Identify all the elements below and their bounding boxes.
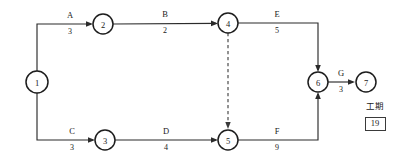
activity-label-A-duration: 3 [68,27,72,36]
activity-label-E-name: E [274,9,279,19]
node-3[interactable]: 3 [95,130,115,150]
activity-label-B-name: B [162,9,168,19]
edge-D-arrowhead [211,137,218,143]
activity-label-F-name: F [275,126,280,136]
node-5[interactable]: 5 [218,130,238,150]
edge-B-path [113,23,216,24]
activity-label-B-duration: 2 [163,26,167,35]
node-6-label: 6 [316,78,320,88]
network-diagram: A 3 B 2 C 3 D 4 E 5 F 9 G 3 1 [0,0,406,163]
edge-A-arrowhead [86,21,93,27]
edge-A-path [37,24,91,71]
node-3-label: 3 [103,136,107,146]
activity-label-C-duration: 3 [70,143,74,152]
node-2[interactable]: 2 [93,14,113,34]
activity-label-A-name: A [67,10,74,20]
node-4[interactable]: 4 [218,13,238,33]
edge-B-arrowhead [211,21,218,27]
activity-label-F-duration: 9 [275,143,279,152]
node-7[interactable]: 7 [356,72,376,92]
edge-dummy-arrowhead [225,122,230,129]
edge-C-arrowhead [88,137,95,143]
edge-F-arrowhead [315,92,321,99]
project-duration-value: 19 [365,117,386,131]
node-5-label: 5 [226,136,230,146]
edge-C-path [37,93,93,140]
activity-label-C-name: C [69,126,75,136]
node-7-label: 7 [364,78,368,88]
activity-label-D-name: D [163,126,169,136]
activity-label-G-duration: 3 [339,85,343,94]
project-duration-panel: 工期 19 [355,101,395,131]
node-1[interactable]: 1 [26,71,48,93]
activity-label-E-duration: 5 [275,26,279,35]
node-6[interactable]: 6 [308,72,328,92]
activity-label-G-name: G [338,68,344,78]
project-duration-label: 工期 [355,101,395,112]
node-1-label: 1 [35,78,39,88]
nodes-layer: 1 2 3 4 5 6 [26,13,376,150]
network-diagram-canvas: A 3 B 2 C 3 D 4 E 5 F 9 G 3 1 [0,0,406,163]
activity-label-D-duration: 4 [164,143,168,152]
edge-G-arrowhead [348,79,355,85]
node-2-label: 2 [101,20,105,30]
edge-E-arrowhead [315,65,321,72]
